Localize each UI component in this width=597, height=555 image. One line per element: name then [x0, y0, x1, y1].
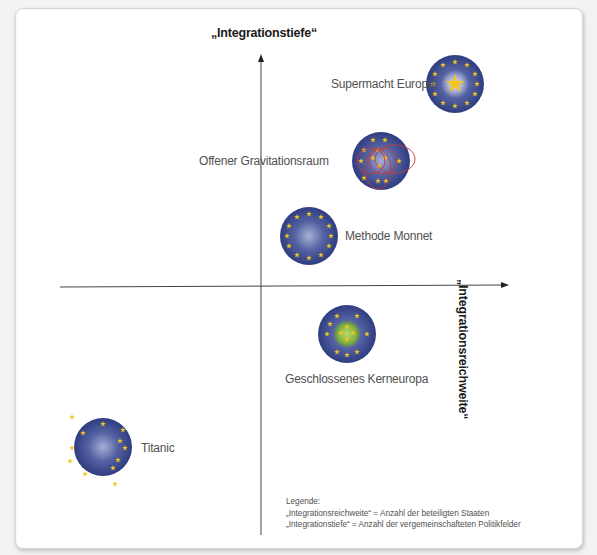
- legend-title: Legende:: [286, 496, 521, 508]
- legend-line-reichweite: „Integrationsreichweite“ = Anzahl der be…: [286, 508, 521, 520]
- x-axis-title: „Integrationsreichweite“: [456, 279, 470, 419]
- label-methode-monnet: Methode Monnet: [345, 229, 432, 243]
- label-titanic: Titanic: [141, 441, 175, 455]
- label-geschlossenes-kerneuropa: Geschlossenes Kerneuropa: [285, 372, 428, 386]
- legend: Legende: „Integrationsreichweite“ = Anza…: [286, 496, 521, 531]
- label-offener-gravitationsraum: Offener Gravitationsraum: [199, 154, 329, 168]
- label-supermacht-europa: Supermacht Europa: [331, 77, 434, 91]
- diagram-canvas: [0, 0, 597, 555]
- globe-supermacht-europa: [426, 55, 484, 113]
- globe-titanic: [67, 414, 132, 486]
- y-axis-title: „Integrationstiefe“: [211, 26, 317, 40]
- x-axis-title-text: „Integrationsreichweite“: [456, 279, 470, 419]
- legend-line-tiefe: „Integrationstiefe“ = Anzahl der vergeme…: [286, 519, 521, 531]
- x-axis: [60, 285, 505, 287]
- globe-methode-monnet: [280, 207, 338, 265]
- globe-offener-gravitationsraum: [352, 132, 415, 190]
- globe-geschlossenes-kerneuropa: [318, 305, 376, 363]
